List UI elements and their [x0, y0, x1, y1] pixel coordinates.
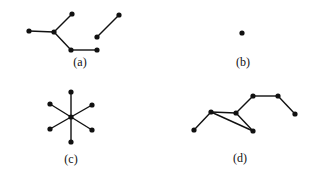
- graph-edge: [97, 15, 119, 37]
- panel-label-b: (b): [236, 55, 250, 69]
- graph-edge: [71, 105, 92, 117]
- graph-node: [275, 93, 280, 98]
- graph-edge: [194, 112, 211, 130]
- graph-panel-d: (d): [191, 93, 297, 165]
- graph-node: [208, 109, 213, 114]
- graph-node: [94, 47, 99, 52]
- graph-node: [89, 102, 94, 107]
- graph-figure: (a)(b)(c)(d): [0, 0, 314, 174]
- panel-label-d: (d): [233, 151, 247, 165]
- graph-node: [69, 11, 74, 16]
- graph-node: [292, 111, 297, 116]
- graph-node: [233, 110, 238, 115]
- graph-edge: [211, 112, 253, 131]
- graph-node: [250, 93, 255, 98]
- graph-node: [68, 47, 73, 52]
- graph-panel-a: (a): [26, 11, 121, 69]
- graph-edge: [71, 117, 92, 130]
- graph-node: [51, 29, 56, 34]
- graph-node: [26, 28, 31, 33]
- graph-panel-c: (c): [47, 89, 94, 166]
- graph-edge: [236, 96, 253, 113]
- graph-edge: [211, 112, 236, 113]
- graph-edge: [236, 113, 253, 131]
- graph-node: [94, 34, 99, 39]
- graph-edge: [50, 104, 71, 117]
- graph-edge: [54, 32, 71, 50]
- graph-node: [116, 12, 121, 17]
- graph-panel-b: (b): [236, 30, 250, 69]
- graph-edge: [278, 96, 295, 114]
- panel-label-c: (c): [64, 152, 77, 166]
- graph-node: [68, 89, 73, 94]
- panel-label-a: (a): [73, 55, 86, 69]
- graph-edge: [29, 31, 54, 32]
- graph-node: [68, 139, 73, 144]
- graph-edge: [54, 14, 72, 32]
- graph-node: [250, 128, 255, 133]
- graph-node: [47, 126, 52, 131]
- graph-edge: [50, 117, 71, 129]
- graph-node: [89, 127, 94, 132]
- graph-node: [191, 127, 196, 132]
- graph-node: [239, 30, 244, 35]
- graph-node: [47, 101, 52, 106]
- graph-node: [68, 114, 73, 119]
